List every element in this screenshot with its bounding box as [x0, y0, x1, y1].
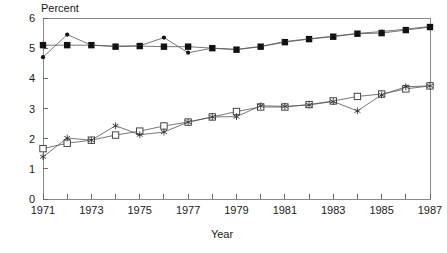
data-point-dot: [331, 34, 335, 38]
x-tick-label: 1977: [176, 204, 200, 216]
data-point-dot: [210, 46, 214, 50]
data-point-dot: [162, 36, 166, 40]
chart-canvas: 0123456197119731975197719791981198319851…: [0, 0, 447, 253]
data-point-filled-square: [40, 42, 46, 48]
y-tick-label: 2: [29, 133, 35, 145]
data-point-dot: [89, 43, 93, 47]
x-tick-label: 1979: [224, 204, 248, 216]
data-point-filled-square: [161, 43, 167, 49]
data-point-open-square: [161, 123, 167, 129]
data-point-open-square: [354, 93, 360, 99]
data-point-star: [354, 108, 360, 115]
data-point-dot: [355, 31, 359, 35]
x-tick-label: 1987: [418, 204, 442, 216]
y-axis-title: Percent: [41, 2, 79, 14]
data-point-dot: [138, 44, 142, 48]
series-upper-dot: [41, 24, 432, 59]
x-tick-label: 1985: [369, 204, 393, 216]
data-point-dot: [186, 51, 190, 55]
series-line-lower-star: [43, 86, 430, 157]
data-point-dot: [428, 24, 432, 28]
data-point-dot: [380, 29, 384, 33]
x-tick-label: 1983: [321, 204, 345, 216]
data-point-star: [40, 153, 46, 160]
data-point-open-square: [112, 132, 118, 138]
data-point-star: [113, 122, 119, 129]
y-tick-label: 5: [29, 42, 35, 54]
y-tick-label: 4: [29, 72, 35, 84]
y-tick-label: 1: [29, 163, 35, 175]
data-point-dot: [41, 55, 45, 59]
data-point-dot: [307, 37, 311, 41]
series-line-upper-filled-square: [43, 27, 430, 50]
data-point-dot: [65, 32, 69, 36]
x-tick-label: 1981: [273, 204, 297, 216]
x-tick-label: 1971: [31, 204, 55, 216]
data-point-dot: [113, 44, 117, 48]
data-point-dot: [283, 39, 287, 43]
x-axis-title: Year: [211, 228, 234, 240]
data-point-dot: [404, 27, 408, 31]
data-point-filled-square: [64, 42, 70, 48]
x-tick-label: 1973: [79, 204, 103, 216]
series-lower-star: [40, 82, 433, 160]
data-point-filled-square: [185, 43, 191, 49]
chart-figure: 0123456197119731975197719791981198319851…: [0, 0, 447, 253]
data-point-dot: [259, 44, 263, 48]
data-point-dot: [234, 47, 238, 51]
y-tick-label: 6: [29, 12, 35, 24]
series-layer: [40, 24, 433, 160]
x-tick-label: 1975: [128, 204, 152, 216]
y-tick-label: 3: [29, 103, 35, 115]
data-point-open-square: [40, 145, 46, 151]
